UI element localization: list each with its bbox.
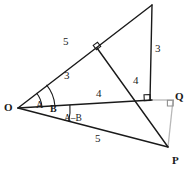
- length-label-3-upper: 3: [64, 70, 70, 81]
- angle-label-a: A: [36, 100, 43, 110]
- angle-label-b: B: [50, 104, 57, 114]
- vertex-label-o: O: [4, 102, 13, 113]
- length-label-5-upper: 5: [63, 36, 69, 47]
- ray-o-to-apex: [18, 5, 152, 108]
- vertex-label-q: Q: [175, 91, 184, 102]
- length-label-5-lower: 5: [95, 133, 101, 144]
- geometry-diagram: O Q P 5 3 3 4 4 5 A B A–B: [0, 0, 194, 172]
- length-label-4-diagonal: 4: [133, 75, 139, 86]
- angle-label-a-minus-b: A–B: [64, 114, 82, 124]
- segment-mid-to-p: [97, 48, 168, 147]
- length-label-3-right: 3: [155, 43, 161, 54]
- length-label-4-horizontal: 4: [96, 88, 102, 99]
- segment-o-to-p: [18, 108, 168, 147]
- vertex-label-p: P: [172, 155, 179, 166]
- main-construction-lines: [18, 5, 168, 147]
- segment-q-to-p-faint: [168, 100, 173, 147]
- segment-apex-vertical: [150, 5, 152, 100]
- diagram-canvas: [0, 0, 194, 172]
